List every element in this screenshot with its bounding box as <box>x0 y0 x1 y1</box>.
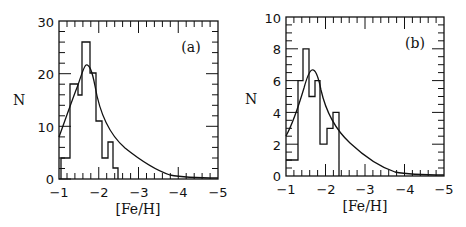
panel-b-fit-curve <box>286 70 444 175</box>
panel-a-xlabel: [Fe/H] <box>115 201 160 217</box>
panel-b-xtick-5: −5 <box>434 182 453 197</box>
panel-a: 30 20 10 0 −1 −2 −3 −4 −5 [Fe/H] N (a) <box>13 15 228 217</box>
panel-a-ytick-10: 10 <box>37 120 54 135</box>
panel-b: 10 8 6 4 2 0 −1 −2 −3 −4 −5 [Fe/H] N (b) <box>245 11 454 214</box>
panel-b-ytick-8: 8 <box>273 42 281 57</box>
panel-b-ytick-4: 4 <box>273 106 281 121</box>
panel-a-histogram <box>61 42 118 179</box>
panel-a-label: (a) <box>181 39 200 55</box>
panel-b-xtick-1: −1 <box>276 182 295 197</box>
panel-b-ytick-2: 2 <box>273 138 281 153</box>
panel-b-xlabel: [Fe/H] <box>342 198 387 214</box>
panel-b-xtick-2: −2 <box>316 182 335 197</box>
panel-a-ytick-30: 30 <box>37 15 54 30</box>
panel-a-ylabel: N <box>13 92 25 108</box>
panel-b-ytick-10: 10 <box>264 11 281 26</box>
figure: 30 20 10 0 −1 −2 −3 −4 −5 [Fe/H] N (a) <box>0 0 466 227</box>
panel-b-xtick-3: −3 <box>355 182 374 197</box>
panel-a-fit-curve <box>59 65 218 178</box>
panel-b-label: (b) <box>405 35 425 51</box>
panel-a-xtick-5: −5 <box>208 185 227 200</box>
panel-b-ylabel: N <box>245 91 257 107</box>
panel-b-xtick-4: −4 <box>395 182 414 197</box>
panel-a-xtick-3: −3 <box>129 185 148 200</box>
panel-a-xtick-4: −4 <box>168 185 187 200</box>
panel-a-ytick-20: 20 <box>37 67 54 82</box>
panel-b-ytick-6: 6 <box>273 74 281 89</box>
panel-a-xtick-2: −2 <box>89 185 108 200</box>
panel-a-xtick-1: −1 <box>49 185 68 200</box>
